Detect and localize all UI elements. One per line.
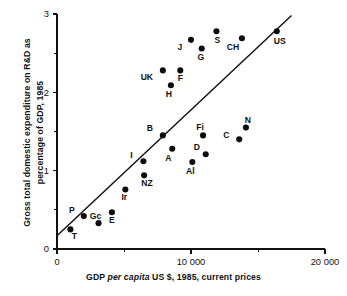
- data-points: [67, 28, 279, 232]
- regression-line: [57, 16, 292, 236]
- point-label-c: C: [223, 130, 229, 140]
- point-label-nz: NZ: [141, 178, 152, 188]
- y-axis-title-line2: percentage of GDP, 1985: [34, 15, 47, 250]
- data-point-c: [236, 136, 242, 142]
- x-tick-label: 10 000: [177, 256, 206, 267]
- point-label-al: Al: [186, 166, 195, 176]
- data-point-a: [169, 146, 175, 152]
- data-point-s: [213, 28, 219, 34]
- point-label-uk: UK: [141, 72, 154, 82]
- x-tick-label: 0: [54, 256, 59, 267]
- point-label-j: J: [178, 42, 183, 52]
- point-label-i: I: [130, 150, 132, 160]
- x-axis-title-italic: per capita: [108, 272, 150, 282]
- data-point-uk: [160, 67, 166, 73]
- point-label-ir: Ir: [121, 192, 127, 202]
- data-point-ch: [239, 35, 245, 41]
- data-point-h: [168, 82, 174, 88]
- point-label-p: P: [69, 205, 75, 215]
- data-point-al: [189, 159, 195, 165]
- point-label-d: D: [194, 142, 200, 152]
- point-label-f: F: [178, 73, 183, 83]
- point-label-gc: Gc: [90, 211, 102, 221]
- data-point-fi: [200, 132, 206, 138]
- data-point-p: [81, 213, 87, 219]
- point-label-t: T: [72, 231, 78, 241]
- tick-labels: 0123010 00020 000: [44, 8, 340, 267]
- point-label-us: US: [274, 36, 286, 46]
- point-label-h: H: [166, 89, 172, 99]
- data-point-g: [199, 45, 205, 51]
- data-point-us: [274, 28, 280, 34]
- data-point-b: [160, 132, 166, 138]
- y-axis-title: Gross total domestic expenditure on R&D …: [21, 15, 46, 250]
- data-point-j: [188, 37, 194, 43]
- x-tick-label: 20 000: [311, 256, 340, 267]
- scatter-chart: TPGcEIrNZIBAAlDFiCNHUKFJGSCHUS 0123010 0…: [0, 0, 347, 296]
- point-labels: TPGcEIrNZIBAAlDFiCNHUKFJGSCHUS: [69, 35, 286, 241]
- point-label-s: S: [215, 35, 221, 45]
- data-point-i: [140, 158, 146, 164]
- point-label-fi: Fi: [196, 122, 204, 132]
- point-label-a: A: [165, 153, 171, 163]
- point-label-e: E: [109, 215, 115, 225]
- data-point-d: [203, 151, 209, 157]
- x-axis-title: GDP per capita US $, 1985, current price…: [0, 272, 347, 282]
- plot-area: TPGcEIrNZIBAAlDFiCNHUKFJGSCHUS 0123010 0…: [0, 0, 347, 296]
- trend-line: [57, 16, 292, 236]
- point-label-g: G: [197, 52, 204, 62]
- y-axis-title-line1: Gross total domestic expenditure on R&D …: [21, 15, 34, 250]
- data-point-n: [243, 125, 249, 131]
- point-label-ch: CH: [227, 42, 239, 52]
- point-label-b: B: [147, 123, 153, 133]
- point-label-n: N: [245, 115, 251, 125]
